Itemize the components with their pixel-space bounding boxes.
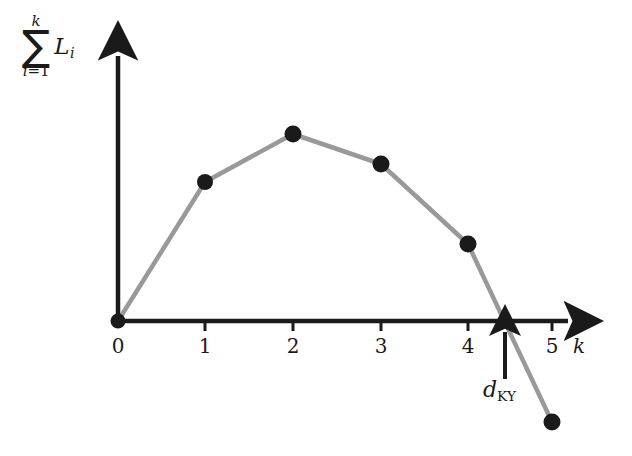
x-tick-label-2: 2 [281, 334, 305, 358]
dky-annotation-label: dKY [483, 379, 516, 403]
dky-subscript: KY [497, 388, 516, 404]
summand-subscript: i [70, 45, 75, 61]
x-tick-label-3: 3 [369, 334, 393, 358]
data-point-k0 [111, 314, 126, 329]
summation-symbol-group: k ∑ i=1 [22, 14, 50, 79]
x-tick-label-1: 1 [193, 334, 217, 358]
figure-canvas: k ∑ i=1 Li k dKY 0 1 2 3 4 5 [0, 0, 632, 456]
summand-term: Li [54, 35, 74, 60]
dky-base: d [483, 377, 497, 402]
data-point-k3 [373, 156, 390, 173]
summation-lower-limit: i=1 [23, 64, 50, 79]
data-point-k5 [544, 414, 561, 431]
summand-base: L [54, 33, 69, 59]
summation-sigma-icon: ∑ [22, 28, 50, 64]
x-axis-label: k [573, 336, 585, 356]
plot-svg [0, 0, 632, 456]
x-tick-label-4: 4 [456, 334, 480, 358]
x-tick-label-0: 0 [106, 334, 130, 358]
summation-lower-value: 1 [40, 62, 50, 80]
data-point-k1 [197, 174, 213, 190]
data-point-k2 [285, 126, 302, 143]
y-axis-label: k ∑ i=1 Li [22, 14, 75, 79]
summation-lower-equals: = [28, 62, 41, 80]
x-tick-label-5: 5 [540, 334, 564, 358]
data-point-k4 [460, 236, 477, 253]
